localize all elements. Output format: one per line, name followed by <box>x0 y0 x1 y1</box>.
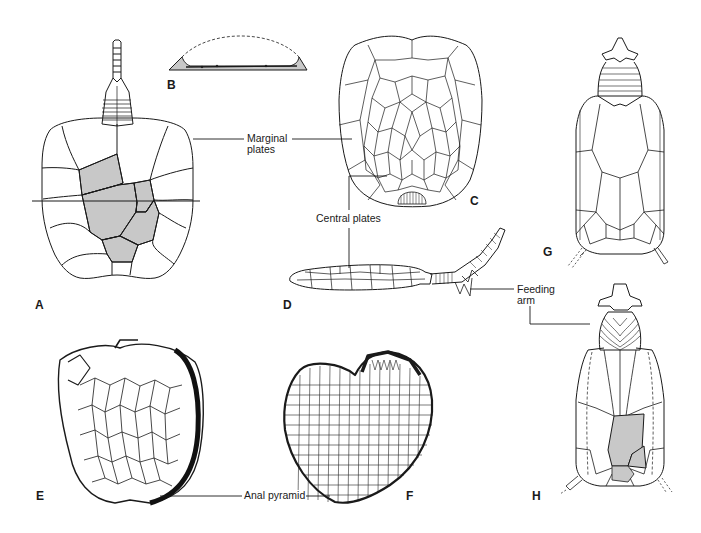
panel-f-drawing <box>284 352 433 503</box>
panel-label-b: B <box>167 78 176 92</box>
panel-label-c: C <box>470 194 479 208</box>
panel-e-drawing <box>58 340 203 503</box>
panel-h-drawing <box>560 284 672 494</box>
panel-label-d: D <box>283 298 292 312</box>
panel-label-a: A <box>35 298 44 312</box>
panel-label-h: H <box>532 489 541 503</box>
annotation-feeding-line2: arm <box>517 295 555 306</box>
panel-a-drawing <box>32 40 200 278</box>
panel-d-drawing <box>290 228 505 296</box>
panel-c-drawing <box>339 36 482 207</box>
annotation-central-plates: Central plates <box>315 213 382 224</box>
annotation-marginal-line2: plates <box>247 144 287 155</box>
panel-b-drawing <box>169 36 307 70</box>
annotation-feeding-arm: Feeding arm <box>516 284 556 306</box>
panel-g-drawing <box>568 38 668 268</box>
annotation-anal-pyramid: Anal pyramid <box>243 490 306 501</box>
panel-label-g: G <box>543 245 552 259</box>
panel-label-e: E <box>36 489 44 503</box>
carpoid-figure <box>0 0 701 533</box>
panel-label-f: F <box>406 489 413 503</box>
annotation-marginal-plates: Marginal plates <box>246 133 288 155</box>
leader-lines <box>160 139 590 496</box>
